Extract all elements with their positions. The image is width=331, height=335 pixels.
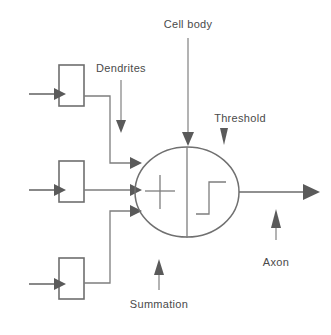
threshold-step-symbol bbox=[196, 182, 226, 214]
arrow-up-icon bbox=[154, 259, 164, 275]
cell-body-label: Cell body bbox=[164, 18, 213, 30]
arrow-right-icon bbox=[303, 184, 320, 200]
summation-plus-symbol bbox=[145, 175, 175, 209]
input-arrow-top bbox=[29, 88, 66, 100]
annotation-cell-body: Cell body bbox=[164, 18, 213, 146]
annotation-dendrites: Dendrites bbox=[96, 62, 146, 133]
input-block-bottom bbox=[29, 205, 142, 299]
annotation-summation: Summation bbox=[130, 259, 188, 310]
arrow-down-icon bbox=[182, 132, 194, 146]
arrow-right-icon bbox=[130, 157, 142, 169]
annotation-axon: Axon bbox=[263, 209, 289, 268]
summation-label: Summation bbox=[130, 298, 188, 310]
dendrite-path-bottom bbox=[84, 211, 133, 283]
arrow-right-icon bbox=[54, 184, 66, 196]
input-block-middle bbox=[29, 161, 142, 202]
arrow-down-icon bbox=[220, 128, 228, 145]
arrow-down-icon bbox=[116, 120, 126, 133]
dendrite-path-top bbox=[84, 96, 133, 163]
cell-body-shape bbox=[135, 147, 239, 238]
neuron-diagram: Cell body Dendrites Threshold Summation … bbox=[0, 0, 331, 335]
dendrites-label: Dendrites bbox=[96, 62, 146, 74]
input-arrow-middle bbox=[29, 184, 66, 196]
neuron-diagram-canvas: Cell body Dendrites Threshold Summation … bbox=[0, 0, 331, 335]
step-function-icon bbox=[196, 182, 226, 214]
arrow-up-icon bbox=[271, 209, 281, 228]
annotation-threshold: Threshold bbox=[214, 112, 266, 145]
axon-label: Axon bbox=[263, 256, 289, 268]
arrow-right-icon bbox=[54, 278, 66, 290]
input-box-bottom bbox=[59, 258, 84, 299]
input-box-middle bbox=[59, 161, 84, 202]
arrow-right-icon bbox=[54, 88, 66, 100]
input-box-top bbox=[59, 65, 84, 106]
input-block-top bbox=[29, 65, 142, 169]
input-arrow-bottom bbox=[29, 278, 66, 290]
threshold-label: Threshold bbox=[214, 112, 266, 124]
axon-output bbox=[239, 184, 320, 200]
